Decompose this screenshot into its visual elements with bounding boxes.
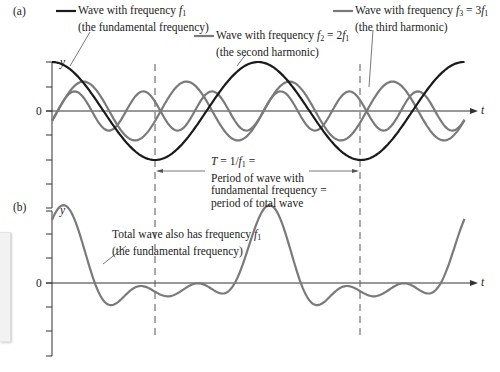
panel-a-y-label: y <box>60 56 65 69</box>
legend-f1-line1: Wave with frequency f1 <box>78 4 209 21</box>
legend-f1-line2: (the fundamental frequency) <box>78 21 209 34</box>
panel-a-label: (a) <box>13 5 26 18</box>
total-wave-annotation-line2: (the fundamental frequency) <box>112 245 261 258</box>
period-arrow-left-icon <box>156 169 163 173</box>
period-annotation-line4: period of total wave <box>211 197 327 210</box>
panel-a-t-label: t <box>481 104 484 117</box>
panel-b-zero-label: 0 <box>36 277 42 290</box>
period-annotation-line1: T = 1/f1 = <box>211 155 327 172</box>
legend-f2-line2: (the second harmonic) <box>216 46 349 59</box>
period-annotation: T = 1/f1 = Period of wave with fundament… <box>211 155 327 209</box>
total-wave-annotation-line1: Total wave also has frequency f1 <box>112 228 261 245</box>
period-annotation-line2: Period of wave with <box>211 172 327 185</box>
legend-f2: Wave with frequency f2 = 2f1 (the second… <box>216 29 349 58</box>
period-annotation-line3: fundamental frequency = <box>211 184 327 197</box>
panel-a-zero-label: 0 <box>36 105 42 118</box>
legend-f3-line2: (the third harmonic) <box>355 21 488 34</box>
legend-f3: Wave with frequency f3 = 3f1 (the third … <box>355 4 488 33</box>
legend-f2-line1: Wave with frequency f2 = 2f1 <box>216 29 349 46</box>
panel-b-t-label: t <box>481 276 484 289</box>
legend-f3-line1: Wave with frequency f3 = 3f1 <box>355 4 488 21</box>
period-arrow-right-icon <box>352 169 359 173</box>
panel-b-y-label: y <box>60 204 65 217</box>
panel-b-t-arrow-icon <box>470 280 478 286</box>
panel-b-label: (b) <box>13 201 26 214</box>
legend-f1: Wave with frequency f1 (the fundamental … <box>78 4 209 33</box>
total-wave-annotation: Total wave also has frequency f1 (the fu… <box>112 228 261 257</box>
panel-a-t-arrow-icon <box>470 108 478 114</box>
